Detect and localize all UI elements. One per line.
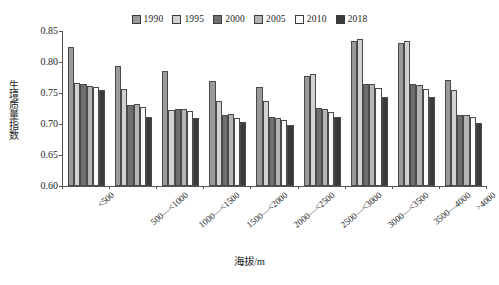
legend-item-2010[interactable]: 2010 [295, 14, 327, 24]
x-tick-mark [62, 186, 63, 189]
x-tick-mark [250, 186, 251, 189]
y-tick-label: 0.85 [41, 26, 59, 36]
legend-swatch-2005 [254, 15, 263, 24]
bar-group [63, 31, 110, 186]
legend-item-2018[interactable]: 2018 [336, 14, 368, 24]
legend-label-1995: 1995 [184, 14, 204, 24]
bar-2018-1500—<2000[interactable] [240, 122, 246, 186]
x-tick-label: 500—<1000 [149, 190, 190, 227]
x-tick-mark [486, 186, 487, 189]
bar-2018-3500—4000[interactable] [429, 97, 435, 186]
x-tick-label: 3000—<3500 [386, 190, 431, 230]
bar-2018-2500—<3000[interactable] [334, 117, 340, 186]
habitat-quality-bar-chart: 199019952000200520102018 生境质量指数 0.600.65… [0, 0, 499, 285]
legend-item-1990[interactable]: 1990 [132, 14, 164, 24]
y-tick-label: 0.70 [41, 119, 59, 129]
x-tick-mark [203, 186, 204, 189]
legend-item-1995[interactable]: 1995 [172, 14, 204, 24]
y-tick-label: 0.75 [41, 88, 59, 98]
bar-2018-500—<1000[interactable] [146, 117, 152, 186]
bar-2018-<500[interactable] [99, 90, 105, 186]
x-tick-mark [439, 186, 440, 189]
legend-item-2005[interactable]: 2005 [254, 14, 286, 24]
bar-group [346, 31, 393, 186]
x-tick-label: 2000—<2500 [291, 190, 336, 230]
legend-label-2018: 2018 [348, 14, 368, 24]
chart-legend: 199019952000200520102018 [0, 14, 499, 24]
legend-label-2000: 2000 [225, 14, 245, 24]
bar-group [204, 31, 251, 186]
x-tick-label: 2500—<3000 [338, 190, 383, 230]
x-axis-title: 海拔/m [0, 256, 499, 268]
legend-label-2005: 2005 [266, 14, 286, 24]
legend-item-2000[interactable]: 2000 [213, 14, 245, 24]
x-tick-label: 3500—4000 [432, 190, 473, 227]
bar-2018-2000—<2500[interactable] [287, 125, 293, 186]
y-tick-label: 0.60 [41, 181, 59, 191]
bar-group [393, 31, 440, 186]
x-tick-mark [345, 186, 346, 189]
legend-swatch-1995 [172, 15, 181, 24]
bar-group [251, 31, 298, 186]
x-tick-label: <500 [96, 190, 117, 210]
bar-group [440, 31, 487, 186]
legend-label-2010: 2010 [307, 14, 327, 24]
y-axis-title: 生境质量指数 [4, 50, 18, 170]
bar-group [157, 31, 204, 186]
plot-area: 0.600.650.700.750.800.85 [62, 31, 487, 187]
legend-label-1990: 1990 [144, 14, 164, 24]
x-tick-label: >4000 [473, 190, 497, 212]
legend-swatch-2018 [336, 15, 345, 24]
legend-swatch-2010 [295, 15, 304, 24]
bar-group [110, 31, 157, 186]
x-tick-mark [109, 186, 110, 189]
bar-2018->4000[interactable] [476, 123, 482, 186]
legend-swatch-1990 [132, 15, 141, 24]
x-tick-label: 1500—<2000 [244, 190, 289, 230]
x-tick-label: 1000—<1500 [197, 190, 242, 230]
bar-2018-3000—<3500[interactable] [382, 97, 388, 186]
y-tick-label: 0.65 [41, 150, 59, 160]
bars-layer [63, 31, 487, 186]
legend-swatch-2000 [213, 15, 222, 24]
x-tick-mark [156, 186, 157, 189]
bar-2018-1000—<1500[interactable] [193, 118, 199, 186]
bar-group [299, 31, 346, 186]
x-tick-mark [298, 186, 299, 189]
x-tick-mark [392, 186, 393, 189]
y-tick-label: 0.80 [41, 57, 59, 67]
